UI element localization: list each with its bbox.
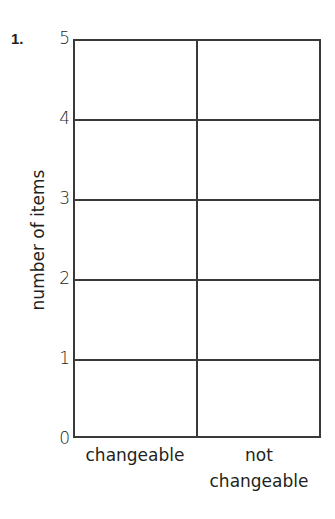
x-label-not-changeable: not changeable <box>197 444 321 492</box>
x-label-not-changeable-line1: not <box>197 444 321 466</box>
x-label-changeable-text: changeable <box>86 445 185 465</box>
y-tick-0: 0 <box>59 430 70 447</box>
y-tick-3: 3 <box>59 190 70 207</box>
bar-graph-grid <box>73 39 321 438</box>
x-label-not-changeable-line2: changeable <box>197 470 321 492</box>
y-tick-2: 2 <box>59 270 70 287</box>
x-label-changeable: changeable <box>73 444 197 466</box>
y-tick-1: 1 <box>59 350 70 367</box>
question-number: 1. <box>11 30 24 47</box>
y-axis-label: number of items <box>28 170 48 311</box>
y-tick-5: 5 <box>59 30 70 47</box>
y-tick-4: 4 <box>59 110 70 127</box>
category-divider <box>196 41 198 436</box>
